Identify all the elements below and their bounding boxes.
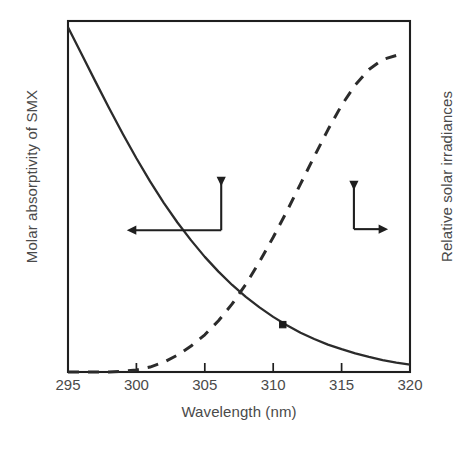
plot-area (0, 0, 469, 453)
right-axis-pointer-down-arrowhead (349, 181, 358, 191)
left-axis-pointer-down-arrowhead (217, 177, 226, 187)
series-line-1 (68, 27, 410, 364)
figure-container: Molar absorptivity of SMX Relative solar… (0, 0, 469, 453)
left-axis-pointer-left-arrowhead (127, 226, 137, 235)
left-axis-pointer (127, 177, 226, 235)
right-axis-pointer (349, 181, 388, 234)
right-axis-pointer-right-arrowhead (379, 225, 389, 234)
data-markers-group (280, 321, 286, 327)
plot-frame (68, 21, 410, 372)
series-line-2 (68, 55, 396, 372)
data-series-group (68, 27, 410, 372)
plot-ticks (136, 363, 341, 372)
data-point-marker-1 (280, 321, 286, 327)
